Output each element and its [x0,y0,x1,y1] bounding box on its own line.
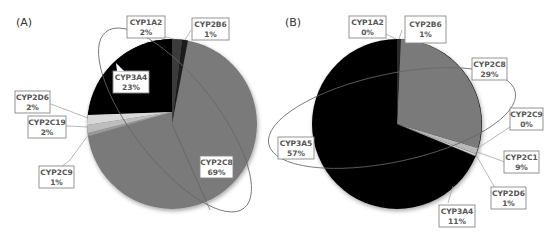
svg-text:CYP2C8: CYP2C8 [473,60,505,69]
svg-text:CYP1A2: CYP1A2 [130,18,163,27]
svg-text:CYP2C8: CYP2C8 [200,158,232,167]
svg-text:0%: 0% [520,120,533,129]
svg-text:11%: 11% [448,217,466,226]
label-b-cyp2c8: CYP2C8 29% [472,58,507,80]
label-a-cyp2c8: CYP2C8 69% [200,156,233,178]
label-b-cyp3a4: CYP3A4 11% [439,205,475,227]
svg-text:CYP2D6: CYP2D6 [16,93,49,102]
svg-text:CYP1A2: CYP1A2 [351,18,384,27]
svg-text:CYP2B6: CYP2B6 [409,20,442,29]
svg-text:CYP3A5: CYP3A5 [280,139,313,148]
label-a-cyp2d6: CYP2D6 2% [15,91,50,113]
label-b-cyp2b6: CYP2B6 1% [405,16,446,43]
svg-text:0%: 0% [361,28,374,37]
svg-text:2%: 2% [140,28,153,37]
svg-text:9%: 9% [515,163,528,172]
svg-text:1%: 1% [502,199,515,208]
pie-a [87,39,257,210]
svg-text:CYP3A4: CYP3A4 [115,73,148,82]
svg-text:CYP2C9: CYP2C9 [510,110,542,119]
svg-text:2%: 2% [41,128,54,137]
svg-text:CYP2B6: CYP2B6 [194,20,227,29]
panel-a-label: (A) [16,16,32,29]
svg-text:1%: 1% [50,178,63,187]
svg-text:57%: 57% [287,149,305,158]
label-b-cyp2d6: CYP2D6 1% [491,187,526,209]
svg-text:CYP2D6: CYP2D6 [492,189,525,198]
figure: (A) CYP1A2 2% CYP2B6 1% CYP3A4 23% [0,0,558,239]
svg-text:29%: 29% [481,70,499,79]
label-a-cyp1a2: CYP1A2 2% [127,16,165,38]
svg-text:CYP3A4: CYP3A4 [441,207,474,216]
svg-text:CYP2C9: CYP2C9 [40,168,72,177]
label-b-cyp1a2: CYP1A2 0% [349,16,386,38]
label-a-cyp2c19: CYP2C19 2% [28,116,66,138]
svg-text:2%: 2% [26,103,39,112]
label-b-cyp2c1: CYP2C1 9% [504,151,539,173]
svg-text:1%: 1% [419,30,432,39]
label-a-cyp2b6: CYP2B6 1% [192,18,229,40]
svg-text:1%: 1% [204,30,217,39]
label-b-cyp2c9: CYP2C9 0% [510,108,543,130]
panel-b-label: (B) [285,16,301,29]
pie-b [312,39,482,209]
svg-text:69%: 69% [208,168,226,177]
svg-text:23%: 23% [122,83,140,92]
label-a-cyp2c9: CYP2C9 1% [39,166,74,188]
label-b-cyp3a5: CYP3A5 57% [278,137,314,159]
svg-text:CYP2C1: CYP2C1 [505,153,537,162]
svg-text:CYP2C19: CYP2C19 [28,118,66,127]
